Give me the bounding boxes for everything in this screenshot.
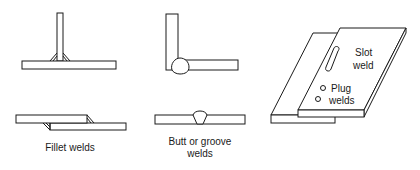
- plug-label-line2: welds: [328, 95, 355, 106]
- fillet-welds-label: Fillet welds: [45, 142, 94, 153]
- lap-joint-fillet: [16, 115, 126, 130]
- upper-plate-front-edge: [298, 110, 364, 117]
- plug-weld-2: [316, 97, 321, 102]
- butt-groove-label-line1: Butt or groove: [169, 136, 232, 147]
- slot-label-line1: Slot: [355, 47, 372, 58]
- slot-plug-welds-group: Slot weld Plug welds: [271, 28, 406, 123]
- corner-weld-bead: [172, 58, 189, 74]
- lap-joint-lower-plate: [50, 123, 126, 130]
- right-fillet-weld: [63, 53, 70, 61]
- left-fillet-weld: [50, 53, 57, 61]
- corner-joint-groove: [166, 14, 238, 74]
- slot-label-line2: weld: [352, 60, 374, 71]
- lap-upper-fillet-weld: [87, 115, 94, 123]
- fillet-welds-group: Fillet welds: [16, 13, 126, 153]
- lap-joint-upper-plate: [16, 115, 87, 123]
- t-joint-base-plate: [22, 61, 116, 69]
- butt-groove-label-line2: welds: [186, 148, 213, 159]
- lap-lower-fillet-weld: [43, 123, 50, 130]
- plug-label-line1: Plug: [331, 83, 351, 94]
- weld-types-diagram: Fillet welds Butt or groove welds: [0, 0, 420, 170]
- butt-joint-groove: [155, 111, 245, 124]
- t-joint-vertical-plate: [57, 13, 63, 61]
- butt-groove-welds-group: Butt or groove welds: [155, 14, 245, 159]
- t-joint-fillet: [22, 13, 116, 69]
- plug-weld-1: [321, 86, 326, 91]
